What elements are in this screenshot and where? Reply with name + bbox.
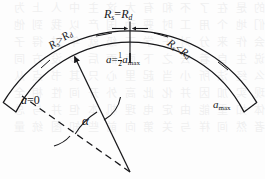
diagram-vector-layer bbox=[0, 0, 265, 179]
mid-value-term-sub: max bbox=[128, 59, 140, 67]
label-right-value: amax bbox=[213, 99, 231, 112]
alpha-leader-curve bbox=[104, 97, 121, 120]
left-value-number: 0 bbox=[34, 93, 40, 107]
left-caption-leading-leader bbox=[41, 60, 50, 68]
mid-value-operator: = bbox=[112, 53, 118, 65]
left-value-operator: = bbox=[27, 93, 34, 107]
left-end-tick bbox=[3, 102, 16, 112]
right-value-sub: max bbox=[219, 104, 231, 112]
label-mid-value: a=12amax bbox=[106, 53, 140, 69]
label-left-value: a=0 bbox=[21, 94, 40, 106]
right-end-tick bbox=[244, 102, 257, 112]
datum-line-dashed bbox=[22, 96, 130, 172]
label-angle-alpha: α bbox=[82, 114, 89, 127]
label-top-center-relation: Rs=Rd bbox=[104, 8, 132, 21]
alpha-lower-hook bbox=[54, 136, 70, 146]
top-relation-trail-sub: d bbox=[128, 13, 132, 22]
figure-canvas: 的 是 在 了 不 和 有 大 这 主 中 人 上 为 们 地 个 用 工 时 … bbox=[0, 0, 265, 179]
